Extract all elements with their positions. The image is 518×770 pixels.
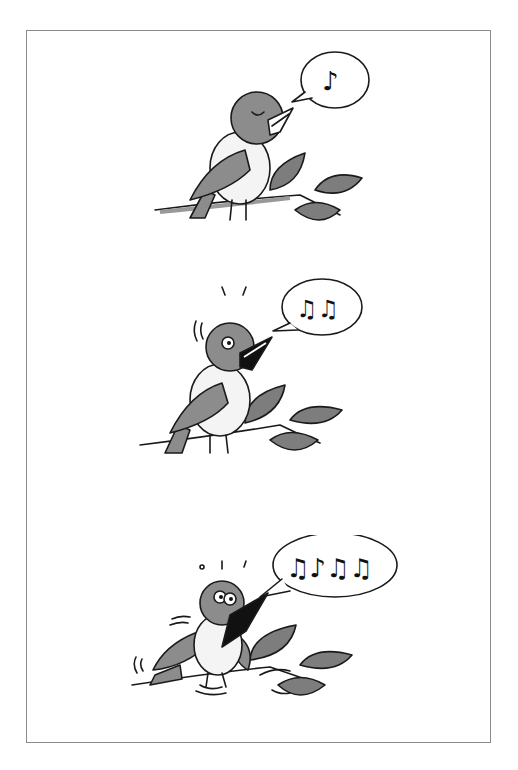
music-note-icon: ♪ — [322, 66, 339, 96]
bird-singing-excited-illustration: ♫♫ — [0, 275, 518, 475]
panel-1: ♪ — [0, 40, 518, 240]
panel-2: ♫♫ — [0, 275, 518, 475]
speech-bubble-icon: ♪ — [292, 52, 369, 108]
speech-bubble-icon: ♫♫ — [273, 279, 362, 335]
panel-3: ♫♪♫♫ — [0, 535, 518, 735]
leaf-icon — [250, 625, 352, 695]
bird-singing-ecstatic-illustration: ♫♪♫♫ — [0, 535, 518, 735]
music-notes-icon: ♫♪♫♫ — [286, 553, 373, 583]
bird-singing-calm-illustration: ♪ — [0, 40, 518, 240]
leaf-icon — [245, 385, 342, 450]
speech-bubble-icon: ♫♪♫♫ — [260, 535, 397, 597]
music-notes-icon: ♫♫ — [296, 295, 339, 323]
leaf-icon — [270, 153, 362, 220]
